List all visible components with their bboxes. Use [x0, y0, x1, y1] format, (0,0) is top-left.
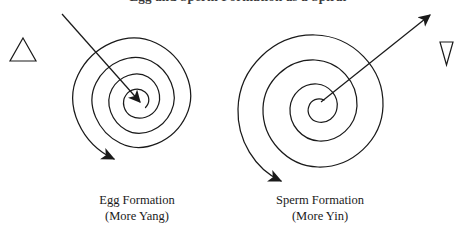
sperm-spiral-path [238, 35, 383, 181]
egg-caption: Egg Formation (More Yang) [62, 192, 212, 224]
sperm-spiral-group [238, 15, 430, 181]
egg-spiral-path [73, 38, 191, 159]
sperm-caption: Sperm Formation (More Yin) [244, 192, 396, 224]
up-triangle-icon [10, 38, 36, 61]
sperm-outward-arrow [321, 15, 430, 102]
egg-caption-line1: Egg Formation [62, 192, 212, 208]
figure-root: Egg and Sperm Formation as a Spiral [0, 0, 476, 239]
down-triangle-icon [440, 42, 453, 65]
sperm-caption-line2: (More Yin) [244, 208, 396, 224]
egg-spiral-group [62, 14, 191, 159]
sperm-caption-line1: Sperm Formation [244, 192, 396, 208]
egg-caption-line2: (More Yang) [62, 208, 212, 224]
